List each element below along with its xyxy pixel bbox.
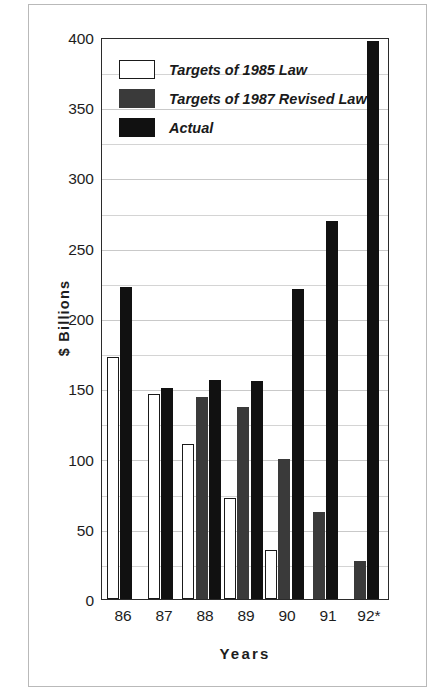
bar-87-white	[148, 394, 160, 599]
bar-88-white	[182, 444, 194, 599]
x-tick-86: 86	[100, 607, 146, 625]
bar-92star-gray	[354, 561, 366, 599]
bar-group-container	[102, 39, 388, 599]
x-tick-90: 90	[264, 607, 310, 625]
bar-89-white	[224, 498, 236, 599]
x-tick-89: 89	[223, 607, 269, 625]
bar-88-gray	[196, 397, 208, 599]
y-axis-title: $ Billions	[56, 248, 72, 388]
x-tick-88: 88	[182, 607, 228, 625]
bar-89-black	[251, 381, 263, 599]
bar-92star-black	[367, 41, 379, 599]
bar-90-black	[292, 289, 304, 600]
x-tick-91: 91	[305, 607, 351, 625]
bar-89-gray	[237, 407, 249, 599]
x-axis-title: Years	[101, 645, 389, 662]
bar-87-black	[161, 388, 173, 599]
bar-90-gray	[278, 459, 290, 600]
figure-container: $ Billions 400 350 300 250 200 150 100 5…	[0, 0, 433, 691]
plot-area: Targets of 1985 Law Targets of 1987 Revi…	[101, 38, 389, 600]
bar-88-black	[209, 380, 221, 599]
bar-86-black	[120, 287, 132, 599]
bar-86-white	[107, 357, 119, 599]
bar-91-gray	[313, 512, 325, 599]
bar-90-white	[265, 550, 277, 599]
x-tick-92: 92*	[346, 607, 392, 625]
bar-91-black	[326, 221, 338, 599]
x-tick-87: 87	[141, 607, 187, 625]
